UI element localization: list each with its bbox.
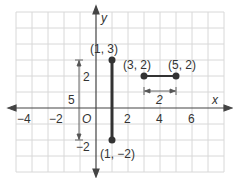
arrow-right-icon: [224, 105, 232, 111]
point-label-3-2: (3, 2): [123, 58, 151, 72]
point-1-3: [109, 57, 116, 64]
x-tick-label: −4: [17, 112, 31, 126]
x-tick-label: 4: [156, 112, 163, 126]
x-tick-label: −2: [49, 112, 63, 126]
y-axis-label: y: [100, 11, 108, 25]
origin-label: O: [82, 112, 91, 126]
point-3-2: [141, 73, 148, 80]
vertical-segment: [109, 57, 116, 144]
x-axis-label: x: [211, 93, 219, 107]
vertical-length-label: 5: [68, 93, 75, 107]
vertical-part-bottom: −2: [76, 140, 90, 154]
x-axis: [8, 105, 232, 111]
x-tick-label: 2: [124, 112, 131, 126]
coordinate-plane: y x O −4 −2 2 4 6 2 5 −2 2 (1, 3) (1, −2…: [0, 0, 233, 178]
point-5-2: [173, 73, 180, 80]
vertical-part-top: 2: [83, 70, 90, 84]
point-label-1-neg2: (1, −2): [100, 147, 135, 161]
horizontal-length-label: 2: [155, 93, 163, 107]
x-tick-label: 6: [188, 112, 195, 126]
point-label-1-3: (1, 3): [90, 42, 118, 56]
arrow-up-icon: [93, 6, 99, 14]
arrow-left-icon: [8, 105, 16, 111]
arrow-down-icon: [93, 169, 99, 177]
point-1-neg2: [109, 137, 116, 144]
point-label-5-2: (5, 2): [168, 58, 196, 72]
vertical-length-marker: [75, 60, 83, 140]
